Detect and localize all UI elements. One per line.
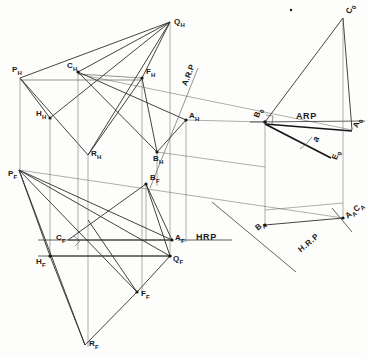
- label-rh: RH: [91, 150, 102, 160]
- label-cf: CF: [56, 234, 66, 244]
- arp-diagonal-group: [150, 68, 198, 188]
- right-angle-mark-cf: [74, 236, 80, 246]
- arp-aux-line: [250, 121, 365, 122]
- label-ch: CH: [67, 62, 78, 72]
- line-bf-qf: [146, 184, 170, 256]
- arp-diagonal-line: [150, 68, 198, 188]
- label-ff: FF: [141, 290, 150, 300]
- label-qh: QH: [174, 18, 185, 28]
- label-arp-aux: ARP: [296, 112, 317, 121]
- label-qf: QF: [173, 255, 183, 265]
- drawing-sheet: .thin { stroke:#4a4a4a; stroke-width:0.6…: [0, 0, 367, 358]
- line-ch-bh: [78, 72, 157, 152]
- transfer-line-lower: [19, 170, 343, 218]
- line-cf-bf: [68, 184, 146, 240]
- line-b0-c0: [265, 18, 343, 122]
- line-pf-hf: [19, 170, 50, 256]
- label-fh: FH: [146, 68, 156, 78]
- line-bf-af: [146, 184, 172, 240]
- aux-view-group: [212, 18, 365, 272]
- line-bh-fh: [142, 78, 157, 152]
- line-c0-a0: [343, 18, 352, 130]
- h-view-group: [20, 22, 186, 155]
- hrp-aux-line: [212, 202, 296, 272]
- line-ch-qh: [78, 22, 170, 72]
- projection-diagram: .thin { stroke:#4a4a4a; stroke-width:0.6…: [0, 0, 367, 358]
- label-ph: PH: [12, 66, 22, 76]
- line-rf-ff: [85, 292, 137, 345]
- label-hrp-main: HRP: [196, 233, 217, 242]
- line-bh-ah: [157, 120, 186, 152]
- aux-quad-inner: [265, 203, 343, 210]
- hrp-ground-line-group: [38, 240, 232, 256]
- line-fh-rh: [88, 78, 142, 155]
- label-bf: BF: [150, 174, 160, 184]
- label-hh: HH: [36, 110, 47, 120]
- label-af: AF: [175, 234, 185, 244]
- label-pf: PF: [8, 170, 17, 180]
- line-pf-qf: [19, 170, 170, 256]
- transfer-lines: [19, 74, 352, 218]
- label-rf: RF: [89, 340, 99, 350]
- label-bh: BH: [153, 155, 164, 165]
- label-ah: AH: [189, 112, 200, 122]
- label-hf: HF: [36, 258, 46, 268]
- line-ba-aaca: [265, 218, 343, 225]
- line-rh-qh: [88, 22, 170, 155]
- line-hf-rf: [50, 256, 85, 345]
- transfer-line-b: [157, 152, 265, 167]
